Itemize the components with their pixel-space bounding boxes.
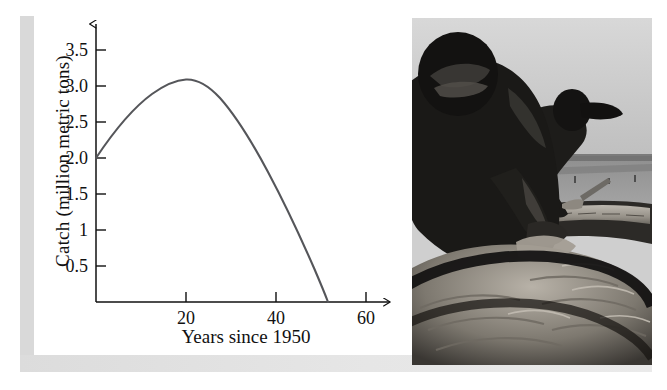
x-axis-ticks [186, 292, 366, 302]
figure-page: 3.5 3.0 2.5 2.0 1.5 1 0.5 20 40 60 [0, 0, 667, 390]
catch-curve [96, 79, 328, 302]
catch-curve-chart: 3.5 3.0 2.5 2.0 1.5 1 0.5 20 40 60 [0, 0, 400, 360]
x-tick-label-60: 60 [357, 308, 375, 328]
fishermen-photograph [412, 18, 652, 365]
photo-grain [412, 18, 652, 365]
photo-svg [412, 18, 652, 365]
y-tick-label-1: 1 [79, 220, 88, 240]
x-tick-label-20: 20 [177, 308, 195, 328]
x-tick-label-40: 40 [267, 308, 285, 328]
x-axis: 20 40 60 [96, 292, 390, 328]
x-axis-title: Years since 1950 [96, 326, 396, 348]
y-axis-title: Catch (million metric tons) [52, 36, 74, 286]
y-axis-ticks [96, 50, 106, 266]
